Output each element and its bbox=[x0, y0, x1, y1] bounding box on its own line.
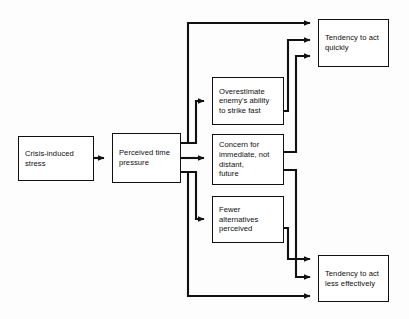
node-fewer-alternatives-perceived[interactable]: Fewer alternatives perceived bbox=[212, 196, 284, 243]
node-label: Tendency to act quickly bbox=[319, 33, 382, 52]
node-tendency-to-act-quickly[interactable]: Tendency to act quickly bbox=[318, 19, 389, 67]
node-label: Concern for immediate, not distant, futu… bbox=[213, 140, 273, 178]
edge-perceived-to-fewer bbox=[181, 172, 204, 219]
node-label: Overestimate enemy's ability to strike f… bbox=[213, 87, 272, 116]
flowchart-canvas: Crisis-induced stress Perceived time pre… bbox=[0, 0, 409, 319]
node-label: Perceived time pressure bbox=[113, 148, 173, 167]
node-label: Tendency to act less effectively bbox=[319, 269, 382, 288]
node-concern-for-immediate[interactable]: Concern for immediate, not distant, futu… bbox=[212, 134, 284, 185]
edge-perceived-to-overestimate bbox=[181, 101, 204, 143]
edge-fewer-to-act-less-effective bbox=[284, 228, 310, 259]
node-crisis-induced-stress[interactable]: Crisis-induced stress bbox=[18, 136, 94, 181]
edge-concern-to-act-less-effective bbox=[284, 170, 310, 277]
node-label: Fewer alternatives perceived bbox=[213, 205, 261, 234]
node-overestimate-enemy-ability[interactable]: Overestimate enemy's ability to strike f… bbox=[212, 77, 284, 125]
node-label: Crisis-induced stress bbox=[19, 149, 77, 168]
edge-concern-to-act-quickly bbox=[284, 56, 310, 152]
node-perceived-time-pressure[interactable]: Perceived time pressure bbox=[112, 133, 181, 183]
node-tendency-to-act-less-effectively[interactable]: Tendency to act less effectively bbox=[318, 255, 389, 302]
edge-overestimate-to-act-quickly bbox=[284, 40, 310, 111]
